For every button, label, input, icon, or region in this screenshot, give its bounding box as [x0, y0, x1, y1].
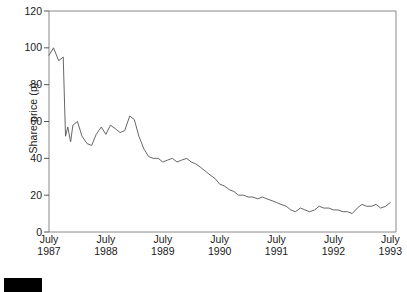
- x-tick-month: July: [133, 234, 193, 246]
- x-tick-label-1993: July 1993: [360, 234, 407, 257]
- x-tick-label-1989: July 1989: [133, 234, 193, 257]
- x-axis-tick-labels: July 1987 July 1988 July 1989 July 1990 …: [0, 234, 407, 274]
- axes-frame: [49, 11, 396, 232]
- figure-caption-chip: [4, 278, 42, 292]
- x-tick-year: 1993: [360, 246, 407, 258]
- y-axis-tick-marks: [44, 11, 49, 232]
- x-tick-label-1991: July 1991: [247, 234, 307, 257]
- x-tick-year: 1990: [190, 246, 250, 258]
- x-tick-month: July: [190, 234, 250, 246]
- x-tick-month: July: [303, 234, 363, 246]
- x-tick-month: July: [247, 234, 307, 246]
- x-tick-month: July: [19, 234, 79, 246]
- x-tick-month: July: [360, 234, 407, 246]
- x-tick-month: July: [76, 234, 136, 246]
- x-tick-label-1990: July 1990: [190, 234, 250, 257]
- x-tick-year: 1989: [133, 246, 193, 258]
- x-tick-year: 1991: [247, 246, 307, 258]
- x-tick-label-1987: July 1987: [19, 234, 79, 257]
- x-tick-year: 1988: [76, 246, 136, 258]
- x-tick-label-1992: July 1992: [303, 234, 363, 257]
- x-tick-year: 1992: [303, 246, 363, 258]
- share-price-line: [49, 48, 390, 214]
- x-tick-label-1988: July 1988: [76, 234, 136, 257]
- x-tick-year: 1987: [19, 246, 79, 258]
